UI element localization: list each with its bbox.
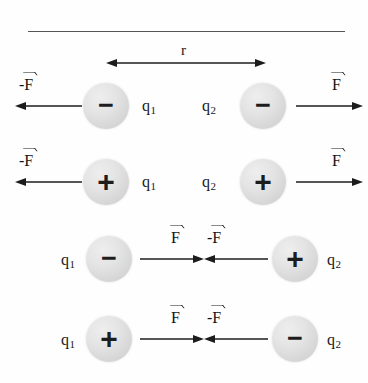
top-divider-rule [28, 31, 345, 32]
force-label-left-row1: -F [19, 76, 33, 94]
force-label-left-row2: -F [19, 152, 33, 170]
charge-sign-left-row4: + [86, 315, 132, 362]
charge-label-left-row2: q1 [142, 173, 156, 191]
force-arrow-left-row1 [15, 100, 82, 112]
force-label-left-row3: F [171, 229, 180, 247]
charge-sign-right-row1: − [240, 81, 286, 129]
charge-label-right-row4: q2 [327, 331, 341, 349]
force-arrow-right-row2 [296, 176, 363, 188]
force-label-left-row4: F [171, 309, 180, 327]
force-arrow-right-row1 [296, 100, 363, 112]
charge-sphere-right-row2: + [240, 159, 286, 205]
charge-sign-right-row4: − [272, 314, 318, 362]
force-label-right-row4: -F [207, 309, 221, 327]
charge-sphere-right-row3: + [272, 236, 318, 282]
charge-sphere-left-row1: − [83, 83, 129, 129]
force-label-right-row2: F [332, 152, 341, 170]
charge-sphere-right-row4: − [272, 316, 318, 362]
charge-label-right-row3: q2 [327, 251, 341, 269]
distance-arrow-r [106, 57, 266, 69]
charge-sphere-left-row2: + [83, 159, 129, 205]
force-arrow-left-row2 [15, 176, 82, 188]
force-arrow-right-row4 [204, 333, 268, 345]
charge-label-right-row2: q2 [202, 173, 216, 191]
charge-sphere-right-row1: − [240, 83, 286, 129]
charge-sphere-left-row3: − [86, 236, 132, 282]
charge-label-right-row1: q2 [202, 97, 216, 115]
charge-sign-right-row2: + [240, 158, 286, 205]
force-arrow-left-row3 [140, 253, 204, 265]
force-label-right-row3: -F [207, 229, 221, 247]
charge-sign-left-row2: + [83, 158, 129, 205]
force-label-right-row1: F [332, 76, 341, 94]
charge-sign-left-row3: − [86, 234, 132, 282]
charge-sign-right-row3: + [272, 235, 318, 282]
charge-label-left-row4: q1 [61, 331, 75, 349]
force-arrow-right-row3 [204, 253, 268, 265]
charge-label-left-row1: q1 [142, 97, 156, 115]
force-arrow-left-row4 [140, 333, 204, 345]
charge-sign-left-row1: − [83, 81, 129, 129]
coulomb-force-figure: r -F − q1 q2 − F -F [0, 0, 368, 383]
charge-sphere-left-row4: + [86, 316, 132, 362]
charge-label-left-row3: q1 [61, 251, 75, 269]
